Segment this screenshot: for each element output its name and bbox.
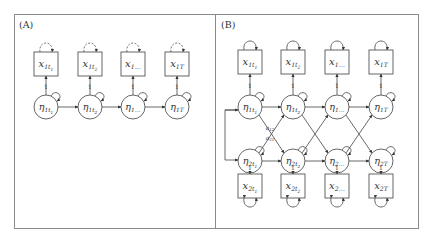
residual-variance-arc <box>127 43 139 52</box>
cross-lag-label-a21: a21 <box>266 134 275 142</box>
residual-variance-arc <box>287 198 299 207</box>
residual-variance-arc <box>84 43 96 52</box>
residual-variance-arc <box>331 41 343 50</box>
observed-x2-1: x2t1 <box>238 174 262 198</box>
loading-label: 1 <box>44 83 48 90</box>
loading-label: 1 <box>335 82 339 89</box>
loading-label: 1 <box>291 82 295 89</box>
loading-label: 1 <box>248 82 252 89</box>
residual-variance-arc <box>171 43 183 52</box>
latent-eta1-3: η1… <box>325 93 351 119</box>
observed-x1-4: x1T <box>165 52 189 76</box>
observed-x1-3: x1… <box>325 50 349 74</box>
loading-label: 1 <box>88 83 92 90</box>
initial-covariance-path <box>225 110 238 160</box>
loading-label: 1 <box>379 164 383 171</box>
residual-variance-arc <box>375 198 387 207</box>
loading-label: 1 <box>335 164 339 171</box>
cross-lag-label-a12: a12 <box>266 124 275 132</box>
latent-eta1-1: η1t1 <box>238 93 264 119</box>
loading-label: 1 <box>291 164 295 171</box>
panel-a-label: (A) <box>19 19 33 30</box>
latent-eta1-2: η1t2 <box>78 93 104 119</box>
observed-x1-1: x1t1 <box>238 50 262 74</box>
residual-variance-arc <box>331 198 343 207</box>
latent-eta1-2: η1t2 <box>281 93 307 119</box>
residual-variance-arc <box>244 41 256 50</box>
panel-a: x1t11η1t1x1t21η1t2x1…1η1…x1T1η1T <box>34 43 191 119</box>
observed-x1-4: x1T <box>369 50 393 74</box>
observed-x2-4: x2T <box>369 174 393 198</box>
residual-variance-arc <box>287 41 299 50</box>
latent-eta1-1: η1t1 <box>34 93 60 119</box>
observed-x2-3: x2… <box>325 174 349 198</box>
panel-b-label: (B) <box>221 19 235 30</box>
observed-x1-2: x1t2 <box>78 52 102 76</box>
observed-x1-2: x1t2 <box>281 50 305 74</box>
residual-variance-arc <box>40 43 52 52</box>
loading-label: 1 <box>175 83 179 90</box>
latent-eta1-3: η1… <box>121 93 147 119</box>
latent-eta1-4: η1T <box>165 93 191 119</box>
residual-variance-arc <box>244 198 256 207</box>
loading-label: 1 <box>248 164 252 171</box>
observed-x2-2: x2t2 <box>281 174 305 198</box>
panel-a-frame <box>15 15 216 229</box>
loading-label: 1 <box>131 83 135 90</box>
residual-variance-arc <box>375 41 387 50</box>
loading-label: 1 <box>379 82 383 89</box>
latent-eta1-4: η1T <box>369 93 395 119</box>
observed-x1-1: x1t1 <box>34 52 58 76</box>
observed-x1-3: x1… <box>121 52 145 76</box>
panel-b: x1t11η1t1η2t1x2t1x1t21η1t2η2t2x2t2x1…1η1… <box>225 41 395 207</box>
diagram-canvas: (A) (B) x1t11η1t1x1t21η1t2x1…1η1…x1T1η1T… <box>0 0 428 241</box>
